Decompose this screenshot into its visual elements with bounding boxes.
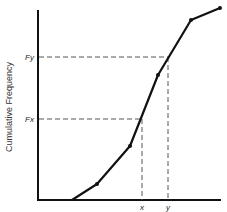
data-point-marker: [218, 6, 222, 10]
fx-label: Fx: [25, 115, 35, 124]
fy-label: Fy: [25, 53, 35, 62]
y-axis-title: Cumulative Frequency: [4, 61, 14, 152]
y-label: y: [165, 203, 171, 212]
curve-markers: [95, 6, 222, 186]
data-point-marker: [189, 18, 193, 22]
cumulative-frequency-chart: Fy Fx x y Cumulative Frequency: [0, 0, 227, 212]
x-label: x: [139, 203, 145, 212]
data-point-marker: [156, 73, 160, 77]
data-point-marker: [128, 144, 132, 148]
cumulative-curve: [72, 8, 220, 200]
data-point-marker: [95, 182, 99, 186]
